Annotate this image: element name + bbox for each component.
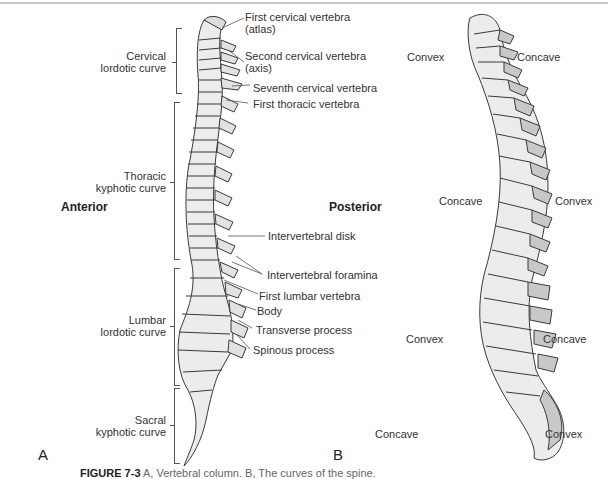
label-b-cervical-left: Convex xyxy=(407,51,444,63)
label-b-thoracic-left: Concave xyxy=(439,195,482,207)
curve-label-line1: Cervical xyxy=(101,50,166,62)
label-second-cervical-vertebra: Second cervical vertebra (axis) xyxy=(245,50,366,74)
posterior-label: Posterior xyxy=(329,201,382,213)
curve-label-cervical: Cervical lordotic curve xyxy=(101,50,166,74)
curve-label-line1: Thoracic xyxy=(96,170,166,182)
lumbar-bracket xyxy=(174,268,175,386)
panel-letter-b: B xyxy=(333,446,343,463)
label-spinous-process: Spinous process xyxy=(253,344,334,356)
sacral-bracket-tick xyxy=(170,425,174,426)
label-first-thoracic-vertebra: First thoracic vertebra xyxy=(253,98,359,110)
figure-caption: FIGURE 7-3 A, Vertebral column. B, The c… xyxy=(80,467,376,479)
label-line1: First cervical vertebra xyxy=(245,11,350,23)
label-seventh-cervical-vertebra: Seventh cervical vertebra xyxy=(253,82,377,94)
lumbar-bracket-tick xyxy=(170,326,174,327)
label-b-sacral-right: Convex xyxy=(545,428,582,440)
label-first-lumbar-vertebra: First lumbar vertebra xyxy=(259,290,360,302)
label-first-cervical-vertebra: First cervical vertebra (atlas) xyxy=(245,11,350,35)
curve-label-sacral: Sacral kyphotic curve xyxy=(96,414,166,438)
label-intervertebral-disk: Intervertebral disk xyxy=(268,230,355,242)
label-transverse-process: Transverse process xyxy=(256,324,352,336)
label-b-lumbar-left: Convex xyxy=(406,333,443,345)
curve-label-line1: Sacral xyxy=(96,414,166,426)
caption-prefix: FIGURE 7-3 xyxy=(80,467,141,479)
label-line2: (axis) xyxy=(245,62,366,74)
label-b-thoracic-right: Convex xyxy=(555,195,592,207)
curve-label-line2: kyphotic curve xyxy=(96,426,166,438)
curve-label-line2: lordotic curve xyxy=(101,62,166,74)
curve-label-line2: kyphotic curve xyxy=(96,182,166,194)
curve-label-line1: Lumbar xyxy=(101,314,166,326)
thoracic-bracket xyxy=(174,102,175,260)
label-line1: Second cervical vertebra xyxy=(245,50,366,62)
cervical-bracket-tick xyxy=(172,62,176,63)
anterior-label: Anterior xyxy=(61,201,108,213)
label-intervertebral-foramina: Intervertebral foramina xyxy=(267,269,378,281)
panel-letter-a: A xyxy=(38,446,48,463)
curve-label-lumbar: Lumbar lordotic curve xyxy=(101,314,166,338)
label-body: Body xyxy=(257,305,282,317)
label-line2: (atlas) xyxy=(245,23,350,35)
label-b-sacral-left: Concave xyxy=(375,428,418,440)
caption-text: A, Vertebral column. B, The curves of th… xyxy=(143,467,376,479)
sacral-bracket xyxy=(174,388,175,464)
label-b-lumbar-right: Concave xyxy=(543,333,586,345)
curve-label-line2: lordotic curve xyxy=(101,326,166,338)
label-b-cervical-right: Concave xyxy=(517,51,560,63)
cervical-bracket xyxy=(176,28,177,94)
thoracic-bracket-tick xyxy=(170,182,174,183)
curve-label-thoracic: Thoracic kyphotic curve xyxy=(96,170,166,194)
